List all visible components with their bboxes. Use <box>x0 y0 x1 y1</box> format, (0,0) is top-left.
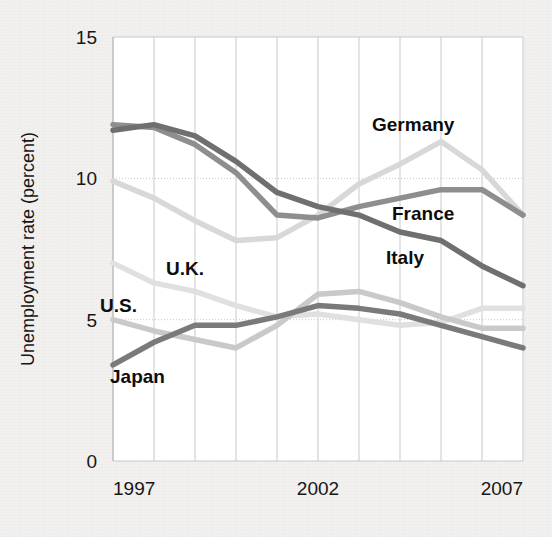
series-label-italy: Italy <box>386 247 424 268</box>
series-label-japan: Japan <box>110 366 165 387</box>
x-tick-label-2002: 2002 <box>297 478 339 499</box>
y-axis-title: Unemployment rate (percent) <box>18 132 38 366</box>
y-tick-label-15: 15 <box>76 27 97 48</box>
series-label-uk: U.K. <box>166 258 204 279</box>
chart-page: 15 10 5 0 1997 2002 2007 Unemployment ra… <box>0 0 552 537</box>
y-tick-label-5: 5 <box>86 310 97 331</box>
series-label-us: U.S. <box>100 295 137 316</box>
unemployment-line-chart: 15 10 5 0 1997 2002 2007 Unemployment ra… <box>0 0 552 537</box>
series-label-france: France <box>392 203 454 224</box>
x-tick-label-1997: 1997 <box>113 478 155 499</box>
series-label-germany: Germany <box>372 114 455 135</box>
x-tick-label-2007: 2007 <box>481 478 523 499</box>
y-tick-label-0: 0 <box>86 451 97 472</box>
y-tick-label-10: 10 <box>76 168 97 189</box>
